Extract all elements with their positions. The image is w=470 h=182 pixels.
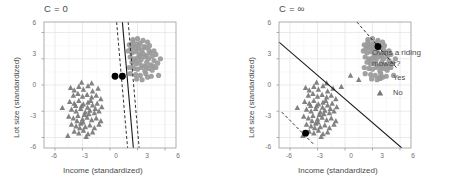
plot-canvas-left	[0, 0, 235, 182]
triangle-marker-icon	[372, 87, 388, 99]
legend-label-yes: Yes	[393, 73, 405, 82]
figure-root: C = 0 Lot size (standardized) Income (st…	[0, 0, 470, 182]
legend-label-no: No	[393, 88, 403, 97]
legend-title-line1: Owns a riding	[372, 48, 468, 59]
legend-title-line2: mower?	[372, 59, 468, 70]
legend-item-yes: Yes	[372, 71, 468, 84]
panel-c-zero: C = 0 Lot size (standardized) Income (st…	[0, 0, 235, 182]
legend: Owns a riding mower? Yes No	[372, 48, 468, 99]
legend-item-no: No	[372, 86, 468, 99]
circle-marker-icon	[372, 72, 388, 84]
